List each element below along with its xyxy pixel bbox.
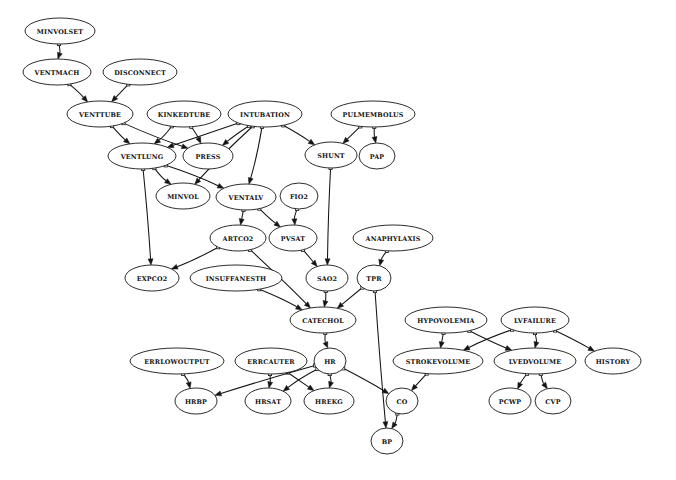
edge-intubation-to-ventalv — [248, 125, 263, 184]
diagram-canvas: MINVOLSETVENTMACHDISCONNECTVENTTUBEKINKE… — [0, 0, 676, 480]
node-label: PAP — [370, 153, 385, 161]
node-bp[interactable]: BP — [371, 428, 403, 454]
edge-line — [375, 291, 385, 422]
arrowhead-icon — [392, 422, 397, 429]
node-co[interactable]: CO — [386, 388, 418, 414]
node-label: BP — [382, 438, 393, 446]
edge-line — [259, 209, 275, 224]
arrowhead-icon — [372, 136, 377, 143]
node-venttube[interactable]: VENTTUBE — [67, 101, 133, 127]
arrowhead-icon — [181, 144, 188, 149]
edge-kinkedtube-to-ventlung — [154, 125, 173, 144]
node-label: HR — [324, 358, 336, 366]
edge-kinkedtube-to-press — [190, 125, 201, 143]
node-hr[interactable]: HR — [314, 348, 346, 374]
arrowhead-icon — [542, 382, 548, 388]
arrowhead-icon — [323, 300, 328, 307]
node-pap[interactable]: PAP — [359, 143, 395, 169]
node-tpr[interactable]: TPR — [357, 265, 391, 291]
edge-line — [469, 330, 512, 348]
edge-ventmach-to-venttube — [68, 83, 88, 102]
node-label: CATECHOL — [302, 317, 344, 325]
edge-fio2-to-pvsat — [292, 207, 299, 225]
edge-anaphylaxis-to-tpr — [379, 249, 389, 266]
node-hypovolemia[interactable]: HYPOVOLEMIA — [405, 307, 487, 333]
node-label: VENTMACH — [34, 69, 80, 77]
arrowhead-icon — [248, 177, 253, 184]
node-minvol[interactable]: MINVOL — [156, 183, 210, 209]
arrowhead-icon — [165, 179, 172, 185]
edge-strokevolume-to-co — [411, 372, 428, 391]
node-minvolset[interactable]: MINVOLSET — [25, 18, 95, 44]
node-label: VENTLUNG — [120, 153, 164, 161]
arrowhead-icon — [283, 385, 289, 391]
node-intubation[interactable]: INTUBATION — [228, 101, 302, 127]
arrowhead-icon — [379, 259, 384, 266]
node-pcwp[interactable]: PCWP — [489, 388, 531, 414]
node-label: DISCONNECT — [114, 69, 166, 77]
node-label: MINVOL — [167, 193, 199, 201]
arrowhead-icon — [505, 346, 512, 351]
node-shunt[interactable]: SHUNT — [305, 142, 357, 168]
node-fio2[interactable]: FIO2 — [280, 183, 318, 209]
node-errcauter[interactable]: ERRCAUTER — [235, 348, 307, 374]
node-label: HRBP — [185, 398, 207, 406]
edge-errcauter-to-hrsat — [268, 372, 273, 388]
node-cvp[interactable]: CVP — [535, 388, 571, 414]
arrowhead-icon — [154, 138, 160, 144]
node-anaphylaxis[interactable]: ANAPHYLAXIS — [353, 225, 433, 251]
node-ventalv[interactable]: VENTALV — [216, 184, 276, 210]
edge-tpr-to-bp — [373, 289, 387, 428]
node-errlowoutput[interactable]: ERRLOWOUTPUT — [130, 348, 224, 374]
arrowhead-icon — [307, 385, 314, 391]
edge-pulmembolus-to-pap — [372, 125, 377, 143]
arrowhead-icon — [186, 382, 191, 389]
edge-line — [555, 331, 589, 349]
node-lvedvolume[interactable]: LVEDVOLUME — [494, 348, 576, 374]
node-pvsat[interactable]: PVSAT — [269, 225, 317, 251]
node-label: PVSAT — [281, 235, 306, 243]
edge-errlowoutput-to-hrbp — [182, 372, 192, 388]
node-label: ANAPHYLAXIS — [365, 235, 421, 243]
edge-line — [251, 127, 262, 178]
node-press[interactable]: PRESS — [183, 143, 233, 169]
node-sao2[interactable]: SAO2 — [306, 265, 348, 291]
node-hrbp[interactable]: HRBP — [175, 388, 217, 414]
node-pulmembolus[interactable]: PULMEMBOLUS — [331, 101, 415, 127]
node-lvfailure[interactable]: LVFAILURE — [501, 307, 569, 333]
edge-hr-to-hrekg — [328, 372, 333, 388]
edge-artco2-to-expco2 — [171, 246, 219, 269]
node-label: HISTORY — [596, 358, 631, 366]
node-label: INSUFFANESTH — [206, 275, 267, 283]
edge-minvolset-to-ventmach — [57, 42, 62, 59]
node-hrekg[interactable]: HREKG — [304, 388, 354, 414]
node-label: CO — [397, 398, 408, 406]
node-expco2[interactable]: EXPCO2 — [125, 265, 179, 291]
node-ventmach[interactable]: VENTMACH — [23, 59, 91, 85]
node-label: TPR — [366, 275, 382, 283]
node-label: ERRLOWOUTPUT — [144, 358, 210, 366]
node-label: SAO2 — [317, 275, 337, 283]
arrowhead-icon — [292, 219, 297, 225]
edge-lvedvolume-to-cvp — [539, 372, 547, 388]
edge-line — [143, 169, 150, 259]
node-strokevolume[interactable]: STROKEVOLUME — [393, 348, 483, 374]
edge-line — [159, 126, 172, 140]
arrowhead-icon — [439, 341, 444, 348]
arrowhead-icon — [196, 137, 201, 144]
arrowhead-icon — [518, 382, 523, 389]
edge-insuffanesth-to-catechol — [258, 288, 303, 310]
node-hrsat[interactable]: HRSAT — [245, 388, 291, 414]
node-label: SHUNT — [317, 152, 345, 160]
bayesian-network-graph: MINVOLSETVENTMACHDISCONNECTVENTTUBEKINKE… — [0, 0, 676, 480]
arrowhead-icon — [217, 183, 224, 188]
node-disconnect[interactable]: DISCONNECT — [103, 59, 177, 85]
node-kinkedtube[interactable]: KINKEDTUBE — [147, 101, 221, 127]
node-insuffanesth[interactable]: INSUFFANESTH — [190, 265, 282, 291]
node-history[interactable]: HISTORY — [585, 348, 641, 374]
node-ventlung[interactable]: VENTLUNG — [108, 143, 176, 169]
node-label: KINKEDTUBE — [158, 111, 210, 119]
node-catechol[interactable]: CATECHOL — [290, 307, 356, 333]
node-artco2[interactable]: ARTCO2 — [210, 225, 266, 251]
edge-pulmembolus-to-shunt — [343, 125, 362, 144]
